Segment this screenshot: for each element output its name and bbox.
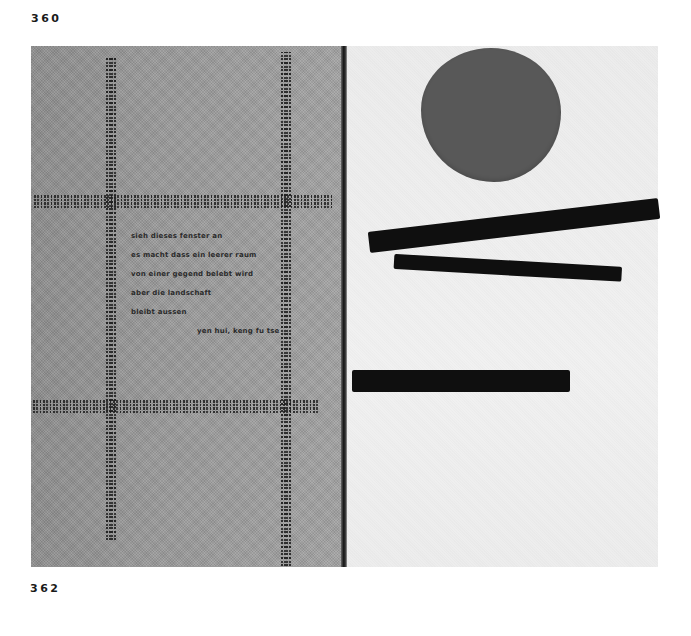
poem-line: von einer gegend belebt wird — [131, 269, 331, 288]
horizontal-text-band-bottom — [33, 399, 319, 413]
poem-text: sieh dieses fenster an es macht dass ein… — [131, 231, 331, 345]
poem-line: sieh dieses fenster an — [131, 231, 331, 250]
plate-abstract-shapes — [347, 46, 658, 567]
horizontal-text-band-top — [34, 194, 334, 208]
plate-concrete-poem: sieh dieses fenster an es macht dass ein… — [31, 46, 344, 567]
poem-line: es macht dass ein leerer raum — [131, 250, 331, 269]
page-number-top: 360 — [31, 12, 61, 25]
dark-circle-shape — [421, 48, 561, 182]
poem-author: yen hui, keng fu tse — [131, 326, 331, 345]
lower-diagonal-bar-shape — [394, 254, 622, 282]
upper-diagonal-bar-shape — [368, 198, 660, 253]
page-number-bottom: 362 — [30, 582, 60, 595]
poem-line: bleibt aussen — [131, 307, 331, 326]
horizontal-bar-shape — [352, 370, 570, 392]
vertical-text-band-left — [106, 56, 117, 540]
poem-line: aber die landschaft — [131, 288, 331, 307]
